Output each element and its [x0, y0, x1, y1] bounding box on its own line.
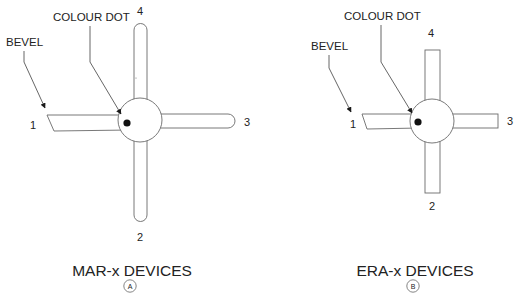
- callout-colour-dot-label: COLOUR DOT: [53, 11, 130, 23]
- callout-bevel-label: BEVEL: [6, 36, 44, 48]
- pin-label-4: 4: [137, 5, 143, 17]
- callout-colour-dot-label: COLOUR DOT: [344, 10, 421, 22]
- pin-label-3: 3: [507, 115, 513, 127]
- bevel-leader-arrow: [329, 55, 351, 112]
- pin-label-1: 1: [30, 119, 36, 131]
- panel-mar-x-devices: BEVEL COLOUR DOT 4 3 1 2 MAR-x DEVICES A: [6, 5, 250, 292]
- bevel-leader-arrow: [24, 51, 45, 108]
- lead-2-bottom: [425, 140, 440, 193]
- colour-dot: [123, 119, 130, 126]
- colour-dot-leader-arrow: [381, 25, 412, 113]
- lead-3-right: [450, 114, 498, 128]
- lead-4-top: [425, 50, 440, 102]
- pin-label-2: 2: [429, 200, 435, 212]
- lead-1-left-beveled: [47, 115, 130, 131]
- device-pinout-diagram: BEVEL COLOUR DOT 4 3 1 2 MAR-x DEVICES A…: [0, 0, 519, 302]
- colour-dot-leader-arrow: [90, 26, 121, 114]
- lead-4-top: [134, 24, 147, 111]
- pin-label-4: 4: [428, 27, 434, 39]
- panel-title-era-x: ERA-x DEVICES: [356, 262, 473, 279]
- pin-label-3: 3: [244, 116, 250, 128]
- speck-mark: [135, 77, 136, 78]
- pin-label-2: 2: [137, 231, 143, 243]
- badge-letter-b: B: [411, 283, 416, 290]
- panel-era-x-devices: BEVEL COLOUR DOT 4 3 1 2 ERA-x DEVICES B: [311, 10, 513, 292]
- colour-dot: [414, 118, 421, 125]
- badge-letter-a: A: [128, 283, 133, 290]
- pin-label-1: 1: [350, 118, 356, 130]
- lead-3-right: [150, 114, 235, 128]
- panel-title-mar-x: MAR-x DEVICES: [72, 262, 192, 279]
- lead-2-bottom: [134, 130, 147, 222]
- callout-bevel-label: BEVEL: [311, 40, 349, 52]
- device-body: [118, 98, 162, 142]
